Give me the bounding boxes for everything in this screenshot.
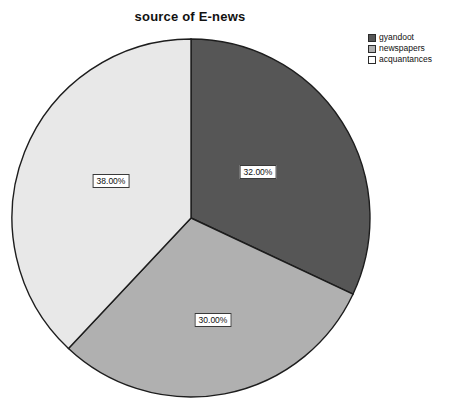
pie-plot-area: 32.00% 30.00% 38.00% — [11, 38, 371, 398]
legend-item-label: gyandoot — [379, 32, 414, 43]
legend-swatch-icon — [368, 45, 376, 53]
legend-item-gyandoot[interactable]: gyandoot — [368, 32, 450, 43]
pie-svg — [11, 38, 371, 398]
legend-swatch-icon — [368, 34, 376, 42]
legend-item-label: newspapers — [379, 43, 425, 54]
chart-title: source of E-news — [0, 9, 380, 24]
legend-item-label: acquantances — [379, 54, 432, 65]
slice-label-acquantances: 38.00% — [93, 174, 130, 188]
legend-item-acquantances[interactable]: acquantances — [368, 54, 450, 65]
slice-label-gyandoot: 32.00% — [240, 165, 277, 179]
legend-swatch-icon — [368, 56, 376, 64]
legend-item-newspapers[interactable]: newspapers — [368, 43, 450, 54]
pie-chart-figure: source of E-news 32.00% 30.00% 38.00% gy… — [0, 0, 450, 404]
legend: gyandoot newspapers acquantances — [368, 32, 450, 65]
slice-label-newspapers: 30.00% — [195, 313, 232, 327]
pie-slices — [12, 39, 370, 397]
